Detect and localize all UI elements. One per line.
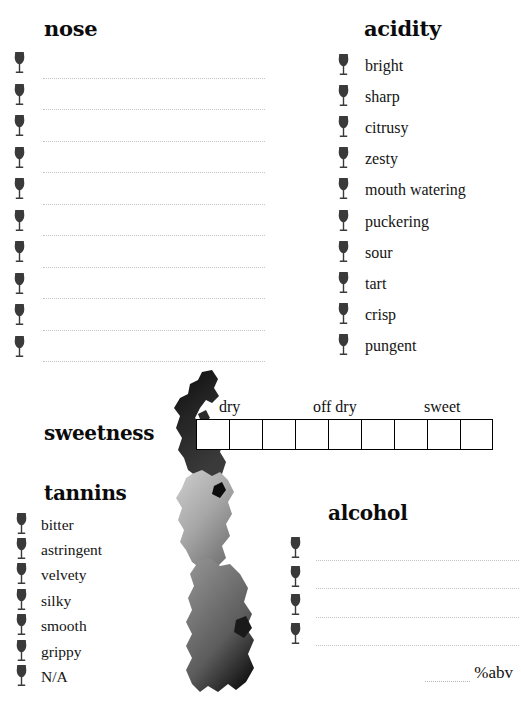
section-heading-alcohol: alcohol — [328, 501, 407, 525]
acidity-option-mouth-watering[interactable]: mouth watering — [336, 175, 466, 206]
alcohol-write-line[interactable] — [316, 588, 519, 589]
acidity-option-bright[interactable]: bright — [336, 50, 466, 81]
nose-line-row[interactable] — [10, 82, 265, 114]
alcohol-write-line[interactable] — [316, 617, 519, 618]
abv-unit-label: %abv — [474, 664, 513, 682]
acidity-option-crisp[interactable]: crisp — [336, 300, 466, 331]
tannins-option-smooth[interactable]: smooth — [14, 614, 102, 639]
wine-glass-icon — [288, 565, 303, 591]
tannins-option-bitter[interactable]: bitter — [14, 512, 102, 537]
nose-write-line[interactable] — [43, 298, 265, 299]
tannins-option-grippy[interactable]: grippy — [14, 639, 102, 664]
sweetness-cell[interactable] — [295, 419, 328, 450]
wine-glass-icon — [12, 335, 27, 361]
acidity-option-zesty[interactable]: zesty — [336, 144, 466, 175]
sweetness-cell[interactable] — [361, 419, 394, 450]
nose-write-line[interactable] — [43, 361, 265, 362]
wine-glass-icon — [336, 146, 351, 172]
sweetness-cell[interactable] — [394, 419, 427, 450]
tannins-option-velvety[interactable]: velvety — [14, 563, 102, 588]
wine-glass-icon — [288, 536, 303, 562]
wine-glass-icon — [14, 664, 29, 690]
alcohol-line-row[interactable] — [286, 621, 519, 650]
nose-line-row[interactable] — [10, 271, 265, 303]
alcohol-entry-block — [286, 535, 519, 649]
abv-field: %abv — [425, 664, 513, 682]
sweetness-cell[interactable] — [262, 419, 295, 450]
nose-line-row[interactable] — [10, 145, 265, 177]
section-heading-acidity: acidity — [364, 16, 441, 41]
acidity-option-label: mouth watering — [365, 181, 466, 199]
wine-glass-icon — [336, 53, 351, 79]
tannins-option-astringent[interactable]: astringent — [14, 537, 102, 562]
sweetness-tick-off-dry: off dry — [313, 398, 357, 416]
nose-line-row[interactable] — [10, 334, 265, 366]
wine-glass-icon — [12, 83, 27, 109]
sweetness-cell[interactable] — [229, 419, 262, 450]
acidity-option-pungent[interactable]: pungent — [336, 331, 466, 362]
acidity-option-citrusy[interactable]: citrusy — [336, 112, 466, 143]
acidity-option-puckering[interactable]: puckering — [336, 206, 466, 237]
alcohol-line-row[interactable] — [286, 535, 519, 564]
tannins-option-label: N/A — [41, 668, 68, 686]
acidity-option-label: crisp — [365, 306, 396, 324]
tannins-option-label: smooth — [41, 617, 87, 635]
wine-glass-icon — [14, 588, 29, 614]
nose-write-line[interactable] — [43, 172, 265, 173]
acidity-option-label: sour — [365, 244, 393, 262]
tannins-option-na[interactable]: N/A — [14, 664, 102, 689]
acidity-option-label: bright — [365, 57, 403, 75]
acidity-option-sour[interactable]: sour — [336, 237, 466, 268]
sweetness-cell[interactable] — [427, 419, 460, 450]
section-heading-nose: nose — [44, 16, 97, 41]
alcohol-line-row[interactable] — [286, 592, 519, 621]
acidity-option-label: tart — [365, 275, 386, 293]
wine-glass-icon — [336, 84, 351, 110]
tannins-option-silky[interactable]: silky — [14, 588, 102, 613]
nose-write-line[interactable] — [43, 204, 265, 205]
acidity-option-tart[interactable]: tart — [336, 268, 466, 299]
wine-glass-icon — [336, 271, 351, 297]
tannins-option-label: grippy — [41, 643, 81, 661]
tasting-note-page: nose — [0, 0, 521, 707]
nose-line-row[interactable] — [10, 239, 265, 271]
nose-write-line[interactable] — [43, 109, 265, 110]
acidity-option-label: sharp — [365, 88, 400, 106]
nose-write-line[interactable] — [43, 141, 265, 142]
alcohol-write-line[interactable] — [316, 560, 519, 561]
nose-write-line[interactable] — [43, 78, 265, 79]
wine-glass-icon — [14, 537, 29, 563]
alcohol-line-row[interactable] — [286, 564, 519, 593]
wine-glass-icon — [14, 562, 29, 588]
abv-input-blank[interactable] — [425, 667, 470, 682]
sweetness-cell[interactable] — [460, 419, 493, 450]
tannins-option-label: silky — [41, 592, 71, 610]
wine-glass-icon — [12, 177, 27, 203]
nose-line-row[interactable] — [10, 302, 265, 334]
nose-write-line[interactable] — [43, 330, 265, 331]
sweetness-cell[interactable] — [196, 419, 229, 450]
sweetness-scale — [196, 419, 493, 450]
acidity-option-sharp[interactable]: sharp — [336, 81, 466, 112]
wine-glass-icon — [14, 639, 29, 665]
acidity-option-label: zesty — [365, 150, 398, 168]
nose-line-row[interactable] — [10, 50, 265, 82]
acidity-option-list: bright sharp citrusy zesty mouth waterin… — [336, 50, 466, 362]
sweetness-cell[interactable] — [328, 419, 361, 450]
wine-glass-icon — [336, 302, 351, 328]
wine-glass-icon — [12, 240, 27, 266]
tannins-option-list: bitter astringent velvety silky smooth — [14, 512, 102, 690]
nose-write-line[interactable] — [43, 235, 265, 236]
nose-line-row[interactable] — [10, 176, 265, 208]
nose-line-row[interactable] — [10, 208, 265, 240]
alcohol-write-line[interactable] — [316, 645, 519, 646]
nose-line-row[interactable] — [10, 113, 265, 145]
acidity-option-label: pungent — [365, 337, 417, 355]
acidity-option-label: citrusy — [365, 119, 409, 137]
nose-write-line[interactable] — [43, 267, 265, 268]
wine-glass-icon — [12, 146, 27, 172]
wine-glass-icon — [12, 114, 27, 140]
section-heading-tannins: tannins — [44, 481, 127, 505]
wine-glass-icon — [336, 115, 351, 141]
wine-glass-icon — [12, 303, 27, 329]
